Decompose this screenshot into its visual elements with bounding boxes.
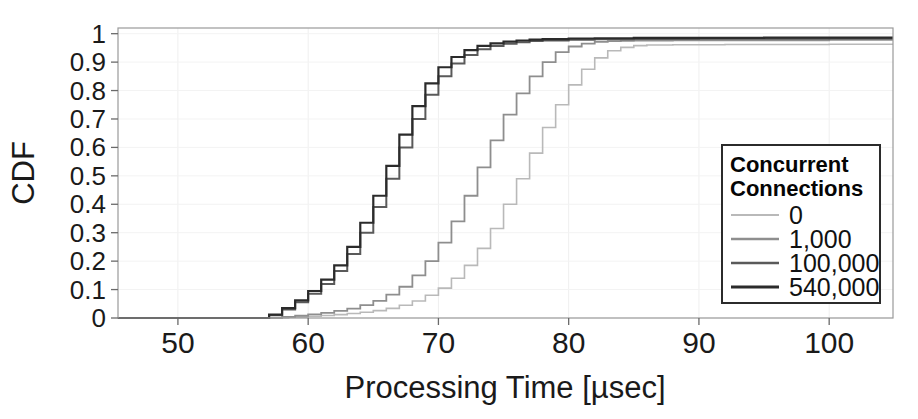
y-tick-label: 0.5 [70,161,106,191]
x-tick-label: 60 [291,326,324,359]
y-tick-label: 1 [92,19,106,49]
y-tick-label: 0.6 [70,132,106,162]
y-tick-label: 0.9 [70,47,106,77]
y-tick-label: 0.7 [70,104,106,134]
legend-title-line1: Concurrent [730,152,849,177]
chart-legend[interactable]: Concurrent Connections 01,000100,000540,… [722,145,880,303]
legend-title-line2: Connections [730,176,863,201]
x-tick-label: 50 [161,326,194,359]
y-tick-label: 0.1 [70,275,106,305]
y-tick-label: 0.4 [70,189,106,219]
x-axis-title: Processing Time [µsec] [344,370,665,405]
x-tick-label: 70 [422,326,455,359]
y-tick-label: 0 [92,303,106,333]
legend-label-3: 540,000 [789,273,879,301]
x-tick-label: 100 [804,326,854,359]
y-tick-label: 0.2 [70,246,106,276]
y-tick-label: 0.8 [70,76,106,106]
x-tick-label: 80 [552,326,585,359]
x-tick-label: 90 [682,326,715,359]
y-tick-label: 0.3 [70,218,106,248]
chart-canvas: 5060708090100 00.10.20.30.40.50.60.70.80… [0,0,918,419]
cdf-chart-figure: 5060708090100 00.10.20.30.40.50.60.70.80… [0,0,918,419]
y-axis-title: CDF [6,141,41,205]
